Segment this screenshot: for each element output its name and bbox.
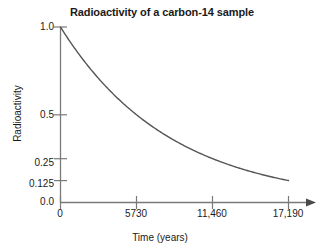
x-axis-arrow-icon (306, 199, 316, 207)
plot-area (0, 0, 324, 252)
decay-curve (61, 27, 289, 181)
chart-figure: Radioactivity of a carbon-14 sample Radi… (0, 0, 324, 252)
